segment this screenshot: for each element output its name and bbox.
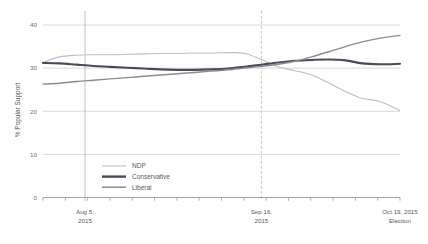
chart-canvas: 010203040 % Popular Support Aug 5,2015Se…: [0, 0, 428, 244]
x-label-aug5-line2: 2015: [78, 217, 92, 224]
y-tick-label: 10: [30, 151, 37, 158]
y-axis-title: % Popular Support: [14, 83, 22, 138]
chart-background: [0, 0, 428, 244]
y-tick-label: 40: [30, 21, 37, 28]
x-label-oct19-line1: Oct 19, 2015: [382, 208, 418, 215]
x-label-sep16-line2: 2015: [255, 217, 269, 224]
x-label-oct19-line2: Election: [389, 217, 412, 224]
x-label-aug5-line1: Aug 5,: [76, 208, 94, 215]
y-tick-label: 30: [30, 64, 37, 71]
legend-label-liberal: Liberal: [132, 184, 152, 191]
popular-support-line-chart: 010203040 % Popular Support Aug 5,2015Se…: [0, 0, 428, 244]
legend-label-ndp: NDP: [132, 162, 146, 169]
y-tick-label: 0: [34, 194, 38, 201]
legend-label-conservative: Conservative: [132, 173, 170, 180]
x-label-sep16-line1: Sep 16,: [251, 208, 273, 215]
y-tick-label: 20: [30, 108, 37, 115]
